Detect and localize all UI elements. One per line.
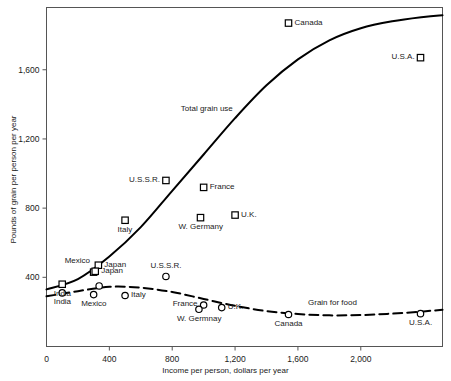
marker-circle-u-k--7 (219, 304, 225, 310)
point-label-w-germnay-1-6: W. Germnay (177, 314, 221, 323)
curve-total-grain-use (47, 15, 443, 289)
plot-frame (47, 8, 443, 347)
x-tick-label-1600: 1,600 (268, 354, 328, 364)
point-label-u-s-a--0-10: U.S.A. (392, 52, 415, 61)
y-tick-label-400: 400 (0, 272, 40, 282)
marker-square-w-germany-7 (197, 214, 203, 220)
point-label-canada-1-8: Canada (275, 319, 303, 328)
marker-circle-u-s-s-r--4 (163, 273, 169, 279)
marker-square-u-k--8 (232, 212, 238, 218)
marker-square-italy-4 (122, 217, 128, 223)
y-tick-label-800: 800 (0, 203, 40, 213)
point-label-india-0-0: India (54, 289, 71, 298)
marker-square-india-0 (59, 281, 65, 287)
point-label-france-0-6: France (210, 182, 235, 191)
marker-square-canada-9 (285, 20, 291, 26)
marker-circle-unlabeled-2 (96, 283, 102, 289)
point-label-mexico-0-1: Mexico (65, 256, 90, 265)
x-tick-label-800: 800 (142, 354, 202, 364)
marker-square-u-s-a--10 (417, 54, 423, 60)
marker-square-japan-3 (92, 268, 98, 274)
x-tick-label-0: 0 (17, 354, 77, 364)
chart-figure: 4008001,2001,600 04008001,2001,6002,000 … (0, 0, 451, 381)
marker-circle-canada-8 (285, 311, 291, 317)
x-axis-title: Income per person, dollars per year (0, 366, 451, 375)
x-tick-label-400: 400 (79, 354, 139, 364)
curve-annotation-grain-for-food: Grain for food (308, 298, 357, 307)
point-label-u-s-s-r--1-4: U.S.S.R. (150, 261, 181, 270)
marker-square-u-s-s-r--5 (163, 177, 169, 183)
y-axis-title: Pounds of grain per person per year (9, 105, 18, 255)
marker-square-france-6 (200, 184, 206, 190)
point-label-japan-0-3: Japan (101, 266, 123, 275)
point-label-u-k--1-7: U.K. (228, 302, 244, 311)
point-label-u-k--0-8: U.K. (241, 210, 257, 219)
point-label-italy-1-3: Italy (131, 290, 146, 299)
curve-annotation-total-grain-use: Total grain use (181, 104, 233, 113)
point-label-italy-0-4: Italy (118, 225, 133, 234)
y-tick-label-1200: 1,200 (0, 134, 40, 144)
point-label-france-1-5: France (173, 299, 198, 308)
point-label-u-s-s-r--0-5: U.S.S.R. (129, 175, 160, 184)
point-label-india-1-0: India (54, 297, 71, 306)
marker-circle-u-s-a--9 (417, 310, 423, 316)
y-tick-label-1600: 1,600 (0, 65, 40, 75)
point-label-u-s-a--1-9: U.S.A. (409, 318, 432, 327)
marker-circle-italy-3 (122, 292, 128, 298)
x-tick-label-2000: 2,000 (331, 354, 391, 364)
x-tick-label-1200: 1,200 (205, 354, 265, 364)
point-label-w-germany-0-7: W. Germany (179, 222, 223, 231)
point-label-mexico-1-1: Mexico (81, 299, 106, 308)
marker-circle-mexico-1 (90, 291, 96, 297)
point-label-canada-0-9: Canada (295, 18, 323, 27)
